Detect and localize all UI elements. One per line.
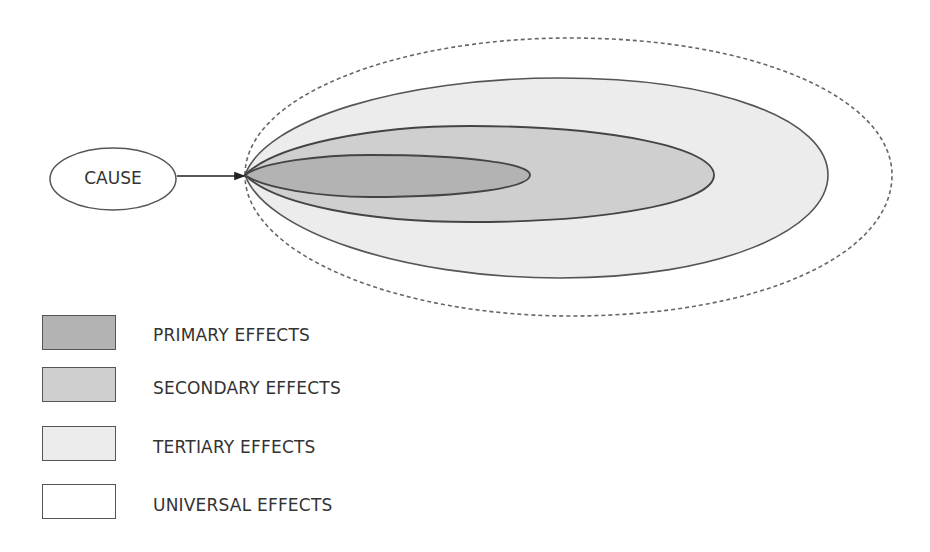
legend-label-universal: UNIVERSAL EFFECTS	[153, 495, 332, 515]
cause-effect-diagram	[0, 0, 930, 552]
legend-swatch-universal	[42, 484, 116, 519]
legend-label-secondary: SECONDARY EFFECTS	[153, 378, 341, 398]
legend-label-primary: PRIMARY EFFECTS	[153, 325, 310, 345]
legend-swatch-tertiary	[42, 426, 116, 461]
legend-label-tertiary: TERTIARY EFFECTS	[153, 437, 316, 457]
legend-swatch-primary	[42, 315, 116, 350]
cause-label: CAUSE	[50, 168, 176, 188]
legend-swatch-secondary	[42, 367, 116, 402]
